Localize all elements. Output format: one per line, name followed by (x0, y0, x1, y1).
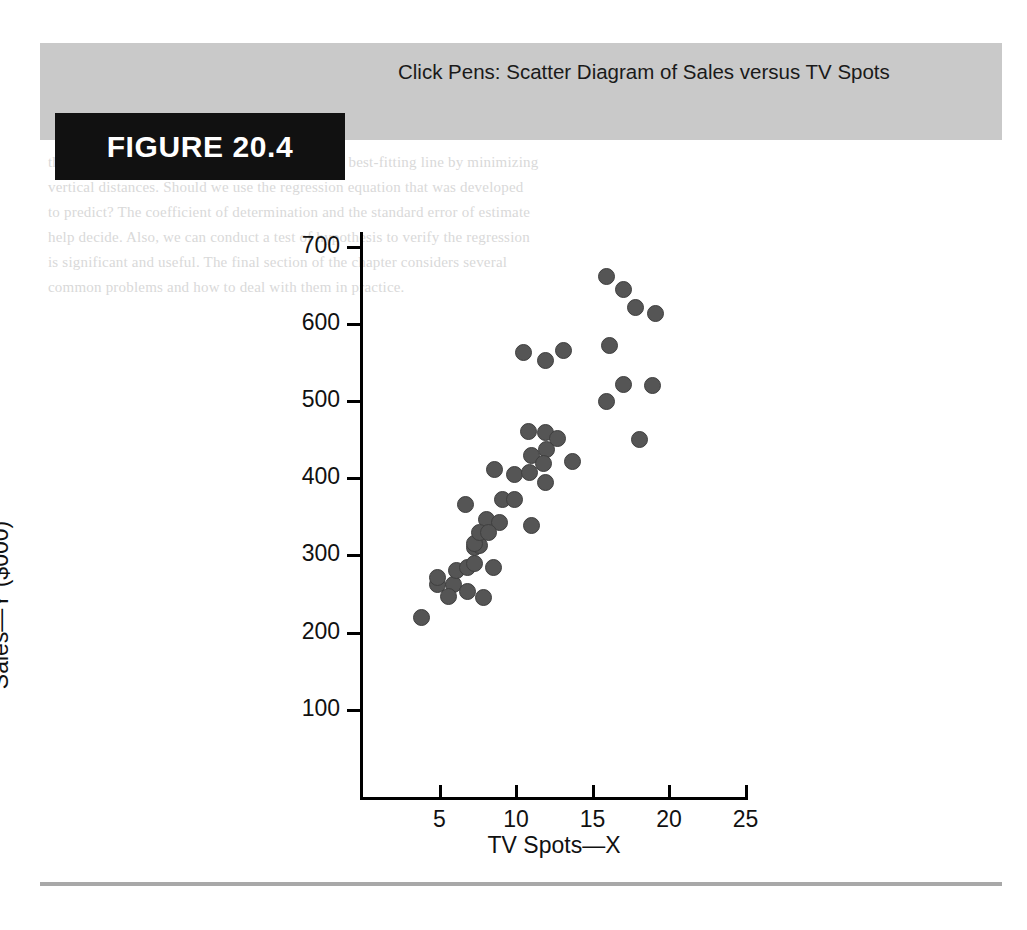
data-point (520, 423, 537, 440)
y-axis-tick-label: 500 (250, 386, 340, 413)
data-point (647, 305, 664, 322)
data-point (429, 569, 446, 586)
y-axis-tick-label: 100 (250, 695, 340, 722)
scatter-chart: 100200300400500600700510152025 Sales—Y (… (0, 0, 1027, 930)
data-point (598, 393, 615, 410)
data-point (644, 377, 661, 394)
data-point (615, 281, 632, 298)
data-point (485, 559, 502, 576)
data-point (521, 464, 538, 481)
y-axis-tick-label: 600 (250, 309, 340, 336)
y-axis-tick-label: 200 (250, 618, 340, 645)
data-point (480, 524, 497, 541)
y-axis-tick (347, 632, 361, 635)
data-point (486, 461, 503, 478)
data-point (631, 431, 648, 448)
y-axis-tick (347, 323, 361, 326)
data-point (475, 589, 492, 606)
x-axis-line (360, 797, 748, 800)
y-axis-tick (347, 246, 361, 249)
data-point (601, 337, 618, 354)
y-axis-tick (347, 477, 361, 480)
y-axis-tick (347, 400, 361, 403)
data-point (523, 517, 540, 534)
x-axis-tick-label: 10 (476, 806, 556, 833)
data-point (515, 344, 532, 361)
x-axis-title: TV Spots—X (363, 832, 745, 859)
x-axis-tick (745, 785, 748, 798)
y-axis-tick-label: 400 (250, 463, 340, 490)
data-point (564, 453, 581, 470)
x-axis-tick-label: 25 (706, 806, 786, 833)
y-axis-title: Sales—Y ($000) (0, 455, 14, 755)
data-point (440, 588, 457, 605)
data-point (537, 474, 554, 491)
data-point (615, 376, 632, 393)
bottom-rule (40, 882, 1002, 886)
x-axis-tick-label: 15 (553, 806, 633, 833)
data-point (537, 352, 554, 369)
y-axis-line (360, 232, 363, 800)
y-axis-tick (347, 554, 361, 557)
x-axis-tick (668, 785, 671, 798)
data-point (466, 555, 483, 572)
data-point (598, 268, 615, 285)
x-axis-tick (515, 785, 518, 798)
y-axis-tick (347, 709, 361, 712)
x-axis-tick-label: 20 (629, 806, 709, 833)
x-axis-tick-label: 5 (400, 806, 480, 833)
y-axis-tick-label: 700 (250, 232, 340, 259)
x-axis-tick (439, 785, 442, 798)
data-point (549, 430, 566, 447)
y-axis-tick-label: 300 (250, 540, 340, 567)
data-point (555, 342, 572, 359)
x-axis-tick (592, 785, 595, 798)
data-point (459, 583, 476, 600)
data-point (506, 491, 523, 508)
data-point (457, 496, 474, 513)
data-point (413, 609, 430, 626)
data-point (627, 299, 644, 316)
